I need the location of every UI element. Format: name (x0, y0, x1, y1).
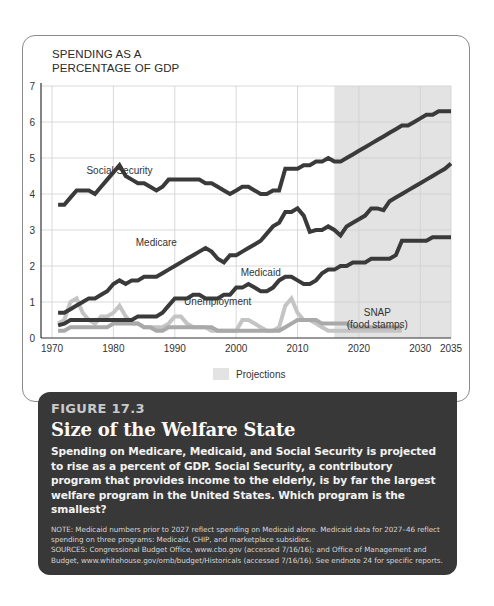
projection-region (334, 86, 451, 338)
x-tick-label: 2020 (348, 343, 371, 354)
x-tick-label: 1970 (41, 343, 64, 354)
figure-caption: FIGURE 17.3 Size of the Welfare State Sp… (38, 392, 457, 575)
x-tick-label: 2035 (440, 343, 463, 354)
x-tick-label: 1990 (164, 343, 187, 354)
series-label-unemployment: Unemployment (184, 296, 251, 307)
x-tick-label: 2030 (409, 343, 432, 354)
series-label-medicare: Medicare (136, 237, 178, 248)
series-label-social-security: Social Security (86, 165, 152, 176)
line-chart: 0123456719701980199020002010202020302035… (0, 0, 494, 400)
sources-text: SOURCES: Congressional Budget Office, ww… (51, 545, 445, 566)
series-label-snap-food-stamps: SNAP (364, 307, 392, 318)
figure-description: Spending on Medicare, Medicaid, and Soci… (51, 444, 445, 517)
y-tick-label: 6 (29, 117, 35, 128)
figure-notes: NOTE: Medicaid numbers prior to 2027 ref… (51, 525, 445, 567)
legend-label-projections: Projections (236, 369, 285, 380)
figure-number: FIGURE 17.3 (51, 401, 445, 416)
y-tick-label: 0 (29, 333, 35, 344)
note-text: NOTE: Medicaid numbers prior to 2027 ref… (51, 525, 445, 546)
y-tick-label: 7 (29, 81, 35, 92)
projections-swatch (213, 368, 229, 380)
y-tick-label: 3 (29, 225, 35, 236)
figure-title: Size of the Welfare State (51, 419, 445, 440)
x-tick-label: 2000 (225, 343, 248, 354)
series-label-snap-food-stamps: (food stamps) (347, 319, 408, 330)
y-tick-label: 4 (29, 189, 35, 200)
y-tick-label: 2 (29, 261, 35, 272)
x-tick-label: 1980 (102, 343, 125, 354)
legend: Projections (213, 368, 285, 380)
x-tick-label: 2010 (286, 343, 309, 354)
series-label-medicaid: Medicaid (241, 267, 281, 278)
y-tick-label: 1 (29, 297, 35, 308)
y-tick-label: 5 (29, 153, 35, 164)
